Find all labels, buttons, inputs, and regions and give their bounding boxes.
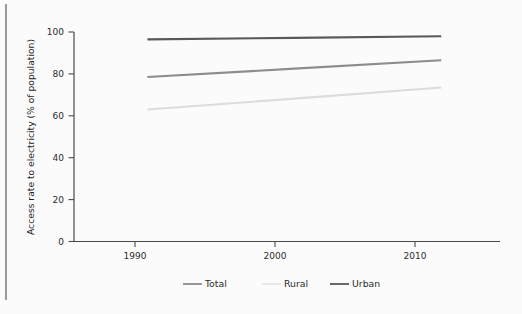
series-line-total — [147, 60, 441, 77]
y-tick-label-20: 20 — [53, 195, 65, 205]
y-tick-label-80: 80 — [53, 69, 65, 79]
y-tick-label-40: 40 — [53, 153, 65, 163]
x-tick-label-2000: 2000 — [264, 251, 287, 261]
series-group — [147, 36, 441, 109]
x-tick-label-1990: 1990 — [124, 251, 147, 261]
legend-label-rural[interactable]: Rural — [284, 278, 308, 289]
chart-legend: TotalRuralUrban — [183, 278, 380, 289]
chart-figure: 100 80 60 40 20 0 Access rate to electri… — [0, 0, 522, 314]
x-tick-label-2010: 2010 — [404, 251, 427, 261]
series-line-urban — [147, 36, 441, 39]
y-axis-ticks — [69, 32, 75, 242]
y-tick-label-60: 60 — [53, 111, 65, 121]
x-axis-ticks — [135, 242, 415, 248]
legend-label-total[interactable]: Total — [204, 278, 227, 289]
y-tick-label-100: 100 — [47, 27, 64, 37]
line-chart: 100 80 60 40 20 0 Access rate to electri… — [0, 0, 522, 314]
y-tick-label-0: 0 — [58, 237, 64, 247]
y-axis-title: Access rate to electricity (% of populat… — [25, 39, 36, 235]
series-line-rural — [147, 88, 441, 110]
legend-label-urban[interactable]: Urban — [352, 278, 380, 289]
